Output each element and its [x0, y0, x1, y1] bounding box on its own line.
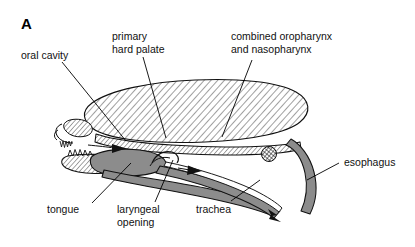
hyoid-cross-section-icon: [262, 147, 277, 162]
label-tongue: tongue: [47, 203, 79, 215]
tongue-shape: [90, 149, 166, 176]
label-esophagus: esophagus: [344, 156, 395, 168]
label-primary-hard-palate-line2: hard palate: [112, 43, 165, 55]
label-laryngeal-opening-line1: laryngeal: [117, 203, 160, 215]
label-trachea: trachea: [196, 203, 231, 215]
oral-cavity-shape: [64, 119, 93, 137]
combined-oropharynx-nasopharynx-shape: [84, 80, 307, 143]
label-combined-pharynx-line2: and nasopharynx: [231, 43, 312, 55]
label-laryngeal-opening-line2: opening: [117, 216, 155, 228]
figure-svg: A oral cavity primary hard palate combin…: [0, 0, 415, 247]
panel-letter: A: [21, 15, 32, 32]
label-combined-pharynx-line1: combined oropharynx: [231, 30, 333, 42]
label-oral-cavity: oral cavity: [21, 49, 69, 61]
upper-teeth-icon: [60, 141, 72, 148]
anatomical-figure-panel-a: A oral cavity primary hard palate combin…: [0, 0, 415, 247]
label-primary-hard-palate-line1: primary: [112, 30, 148, 42]
